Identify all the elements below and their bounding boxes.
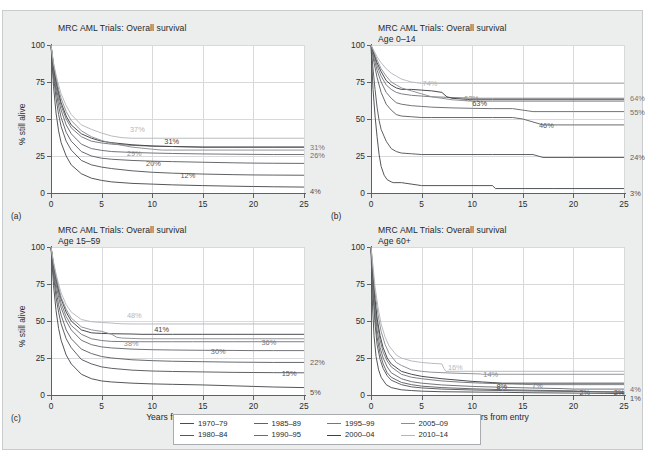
figure-canvas: 02550751000510152025MRC AML Trials: Over… [2, 10, 643, 450]
legend-swatch-icon [254, 435, 268, 436]
legend-item-2010-14: 2010–14 [401, 431, 475, 439]
legend-swatch-icon [180, 435, 194, 436]
panel-d: 02550751000510152025MRC AML Trials: Over… [3, 11, 644, 451]
figure-root: 02550751000510152025MRC AML Trials: Over… [0, 0, 645, 456]
legend-item-1970-79: 1970–79 [180, 420, 254, 428]
legend-item-label: 2005–09 [419, 420, 449, 428]
legend-item-label: 2010–14 [419, 431, 449, 439]
legend-item-label: 1970–79 [198, 420, 228, 428]
series-line-1990-95 [371, 247, 624, 389]
series-end-label: 2% [579, 388, 590, 397]
legend-item-1990-95: 1990–95 [254, 431, 328, 439]
legend-swatch-icon [401, 435, 415, 436]
legend-item-1995-99: 1995–99 [327, 420, 401, 428]
series-end-label: 4% [630, 385, 641, 394]
legend-grid: 1970–791980–841985–891990–951995–992000–… [174, 415, 480, 444]
series-end-label: 2% [614, 388, 625, 397]
legend-item-1980-84: 1980–84 [180, 431, 254, 439]
series-line-2010-14 [371, 247, 624, 371]
series-end-label: 8% [496, 382, 507, 391]
legend-swatch-icon [327, 435, 341, 436]
legend-item-label: 1990–95 [272, 431, 302, 439]
chart-legend: 1970–791980–841985–891990–951995–992000–… [173, 414, 481, 445]
curves-d [3, 11, 644, 451]
legend-swatch-icon [401, 423, 415, 424]
legend-swatch-icon [180, 423, 194, 424]
series-end-label: 7% [532, 381, 543, 390]
legend-item-2005-09: 2005–09 [401, 420, 475, 428]
legend-item-2000-04: 2000–04 [327, 431, 401, 439]
series-line-2000-04 [371, 247, 624, 383]
series-end-label: 16% [448, 363, 463, 372]
legend-swatch-icon [327, 423, 341, 424]
series-end-label: 1% [630, 394, 641, 403]
legend-item-label: 1985–89 [272, 420, 302, 428]
legend-item-label: 1995–99 [345, 420, 375, 428]
legend-item-label: 2000–04 [345, 431, 375, 439]
series-line-2005-09 [371, 247, 624, 374]
series-line-1995-99 [371, 247, 624, 385]
series-end-label: 14% [483, 370, 498, 379]
legend-swatch-icon [254, 423, 268, 424]
legend-item-label: 1980–84 [198, 431, 228, 439]
legend-item-1985-89: 1985–89 [254, 420, 328, 428]
